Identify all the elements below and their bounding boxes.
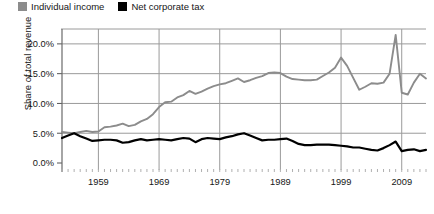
x-tick-label: 2009: [391, 177, 412, 187]
y-tick-label: 20.0%: [28, 39, 54, 49]
series-line-net-corporate-tax: [62, 133, 426, 151]
x-tick-label: 1989: [270, 177, 291, 187]
y-tick-label: 5.0%: [33, 129, 54, 139]
y-tick-label: 15.0%: [28, 69, 54, 79]
y-tick-label: 0.0%: [33, 158, 54, 168]
x-tick-label: 1999: [331, 177, 352, 187]
series-line-individual-income: [62, 35, 426, 133]
chart-plot-area: 0.0%5.0%10.0%15.0%20.0%19591969197919891…: [0, 0, 434, 214]
x-tick-label: 1979: [209, 177, 230, 187]
x-tick-label: 1969: [149, 177, 170, 187]
y-tick-label: 10.0%: [28, 99, 54, 109]
x-tick-label: 1959: [88, 177, 109, 187]
chart-container: Individual income Net corporate tax Shar…: [0, 0, 434, 214]
